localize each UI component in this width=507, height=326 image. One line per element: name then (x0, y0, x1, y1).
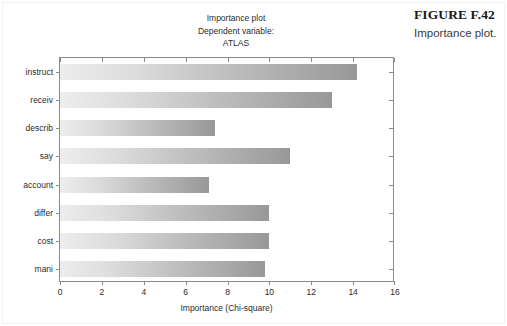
y-axis-label-account: account (23, 180, 53, 190)
y-axis-tick-right (389, 269, 393, 270)
y-axis-tick-right (389, 213, 393, 214)
x-axis-tick-label: 4 (141, 287, 146, 297)
chart-subtitle-dependent-variable: Dependent variable: (150, 25, 322, 38)
x-axis-tick-label: 16 (390, 287, 399, 297)
x-axis-tick-top (60, 58, 61, 62)
x-axis-tick-top (269, 58, 270, 62)
x-axis-tick-top (144, 58, 145, 62)
bar-row: differ (60, 205, 393, 221)
x-axis-tick (102, 281, 103, 285)
bar-row: say (60, 148, 393, 164)
bar-differ (60, 205, 269, 221)
bar-instruct (60, 64, 357, 80)
y-axis-tick (56, 241, 60, 242)
figure-caption-subtitle: Importance plot. (414, 26, 506, 40)
y-axis-label-receiv: receiv (30, 95, 53, 105)
y-axis-tick-right (389, 72, 393, 73)
y-axis-tick-right (389, 128, 393, 129)
figure-caption-title: FIGURE F.42 (414, 7, 506, 22)
x-axis-tick (311, 281, 312, 285)
y-axis-tick-right (389, 156, 393, 157)
x-axis-tick-label: 8 (225, 287, 230, 297)
chart-subtitle-variable-name: ATLAS (150, 37, 322, 50)
y-axis-tick-right (389, 100, 393, 101)
plot-area: instructreceivdescribsayaccountdiffercos… (59, 57, 394, 282)
x-axis-tick-label: 6 (183, 287, 188, 297)
x-axis-label: Importance (Chi-square) (60, 303, 393, 313)
bar-row: cost (60, 233, 393, 249)
x-axis-tick-top (311, 58, 312, 62)
bar-cost (60, 233, 269, 249)
bar-row: instruct (60, 64, 393, 80)
bar-describ (60, 120, 215, 136)
x-axis-tick-label: 2 (100, 287, 105, 297)
x-axis-tick-label: 10 (265, 287, 274, 297)
chart-title: Importance plot (150, 12, 322, 25)
y-axis-tick (56, 72, 60, 73)
y-axis-tick (56, 100, 60, 101)
x-axis-tick (144, 281, 145, 285)
x-axis-tick (60, 281, 61, 285)
bar-mani (60, 261, 265, 277)
bar-row: receiv (60, 92, 393, 108)
bar-receiv (60, 92, 332, 108)
bar-series: instructreceivdescribsayaccountdiffercos… (60, 58, 393, 281)
y-axis-tick-right (389, 241, 393, 242)
y-axis-label-say: say (40, 151, 53, 161)
x-axis-tick (394, 281, 395, 285)
y-axis-label-instruct: instruct (26, 67, 53, 77)
bar-row: mani (60, 261, 393, 277)
x-axis-tick-top (228, 58, 229, 62)
y-axis-tick (56, 128, 60, 129)
y-axis-tick-right (389, 185, 393, 186)
y-axis-label-differ: differ (34, 208, 53, 218)
y-axis-tick (56, 213, 60, 214)
x-axis-tick (353, 281, 354, 285)
y-axis-label-cost: cost (37, 236, 53, 246)
x-axis-tick-label: 12 (307, 287, 316, 297)
bar-account (60, 177, 209, 193)
x-axis-tick (269, 281, 270, 285)
x-axis-tick (186, 281, 187, 285)
x-axis-tick (228, 281, 229, 285)
figure-caption: FIGURE F.42 Importance plot. (414, 7, 506, 40)
x-axis-tick-top (186, 58, 187, 62)
figure-page: FIGURE F.42 Importance plot. Importance … (0, 0, 507, 326)
x-axis-tick-top (102, 58, 103, 62)
y-axis-tick (56, 185, 60, 186)
chart-title-block: Importance plot Dependent variable: ATLA… (150, 12, 322, 50)
bar-row: describ (60, 120, 393, 136)
x-axis-tick-label: 14 (348, 287, 357, 297)
y-axis-label-mani: mani (35, 264, 53, 274)
x-axis-tick-top (394, 58, 395, 62)
x-axis-tick-label: 0 (58, 287, 63, 297)
y-axis-tick (56, 156, 60, 157)
bar-row: account (60, 177, 393, 193)
y-axis-label-describ: describ (26, 123, 53, 133)
y-axis-tick (56, 269, 60, 270)
bar-say (60, 148, 290, 164)
x-axis-tick-top (353, 58, 354, 62)
